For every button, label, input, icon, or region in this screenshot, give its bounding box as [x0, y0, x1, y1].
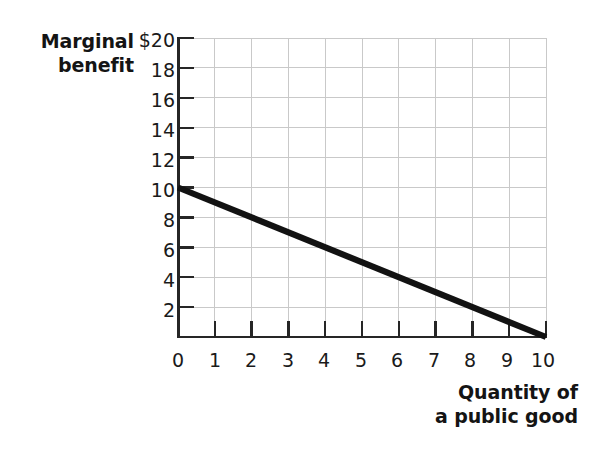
x-axis-ticks	[215, 321, 546, 337]
y-axis-ticks	[178, 38, 194, 307]
chart-figure: Marginal benefit Quantity of a public go…	[0, 0, 592, 451]
plot-area	[0, 0, 592, 451]
